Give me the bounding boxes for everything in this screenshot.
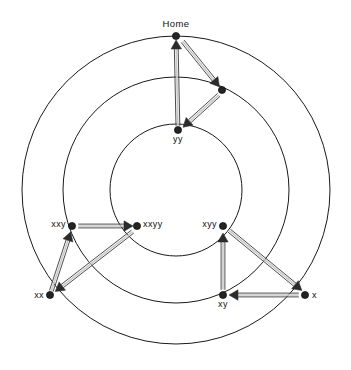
arrow-head-icon	[171, 40, 181, 49]
arrow-head-icon	[124, 221, 133, 231]
arrow-head-icon	[218, 233, 228, 242]
node-dot-xy[interactable]	[219, 291, 226, 298]
radial-graph-svg: Homeyyxxyxxyyxyyxxxyx	[0, 0, 351, 370]
node-xy[interactable]: xy	[218, 291, 228, 309]
node-dot-xx[interactable]	[46, 291, 53, 298]
arrow-head-icon	[229, 290, 238, 300]
node-label-xx: xx	[34, 290, 44, 300]
node-label-xyy: xyy	[202, 219, 217, 229]
node-xyy[interactable]: xyy	[202, 219, 226, 230]
node-xxy[interactable]: xxy	[51, 219, 75, 230]
node-dot-home[interactable]	[172, 32, 179, 39]
edge-yy-home	[171, 40, 181, 126]
concentric-rings-group	[22, 36, 330, 344]
node-dot-mid_top[interactable]	[218, 86, 225, 93]
edge-xyy-x	[228, 229, 302, 290]
node-label-home: Home	[163, 18, 190, 29]
node-x[interactable]: x	[301, 290, 317, 300]
node-dot-xyy[interactable]	[219, 222, 226, 229]
edge-midtop-yy	[183, 93, 220, 127]
outer-ring	[22, 36, 330, 344]
node-dot-xxyy[interactable]	[133, 222, 140, 229]
edges-group	[50, 40, 302, 300]
node-label-xxy: xxy	[51, 219, 66, 229]
node-label-x: x	[312, 290, 317, 300]
node-dot-xxy[interactable]	[68, 222, 75, 229]
edge-xy-xyy	[218, 233, 228, 290]
node-label-xy: xy	[218, 299, 228, 309]
node-xxyy[interactable]: xxyy	[133, 219, 162, 230]
node-dot-x[interactable]	[301, 291, 308, 298]
diagram-canvas: Homeyyxxyxxyyxyyxxxyx	[0, 0, 351, 370]
edge-x-xy	[229, 290, 299, 300]
node-label-xxyy: xxyy	[143, 219, 163, 229]
node-label-yy: yy	[173, 134, 183, 144]
edge-xxy-xxyy	[78, 221, 133, 231]
node-dot-yy[interactable]	[174, 126, 181, 133]
node-yy[interactable]: yy	[173, 126, 183, 144]
node-xx[interactable]: xx	[34, 290, 53, 300]
node-mid_top[interactable]	[218, 86, 225, 93]
